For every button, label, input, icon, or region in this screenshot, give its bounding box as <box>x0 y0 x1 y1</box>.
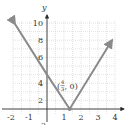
svg-text:2: 2 <box>78 113 83 122</box>
svg-text:3: 3 <box>95 113 100 122</box>
svg-text:2: 2 <box>38 96 43 105</box>
svg-text:-2: -2 <box>7 113 15 122</box>
partial-y-tick-label: 2 <box>41 121 46 125</box>
svg-text:1: 1 <box>61 113 66 122</box>
svg-text:-1: -1 <box>25 113 33 122</box>
svg-text:8: 8 <box>38 36 43 45</box>
x-tick-labels: -2 -1 1 2 3 4 <box>7 113 117 122</box>
svg-text:(: ( <box>57 82 60 91</box>
svg-text:6: 6 <box>38 53 43 62</box>
vertex-point <box>68 107 72 111</box>
vertex-annotation: ( 4 3 , 0) <box>57 79 78 92</box>
function-line <box>15 24 112 109</box>
svg-text:4: 4 <box>38 79 43 88</box>
svg-text:4: 4 <box>112 113 117 122</box>
abs-value-graph: y 2 4 6 8 10 -2 -1 1 2 3 4 2 ( 4 3 , 0) <box>0 0 130 125</box>
svg-text:10: 10 <box>33 19 43 28</box>
svg-text:, 0): , 0) <box>65 82 78 91</box>
y-axis-label: y <box>41 3 47 12</box>
